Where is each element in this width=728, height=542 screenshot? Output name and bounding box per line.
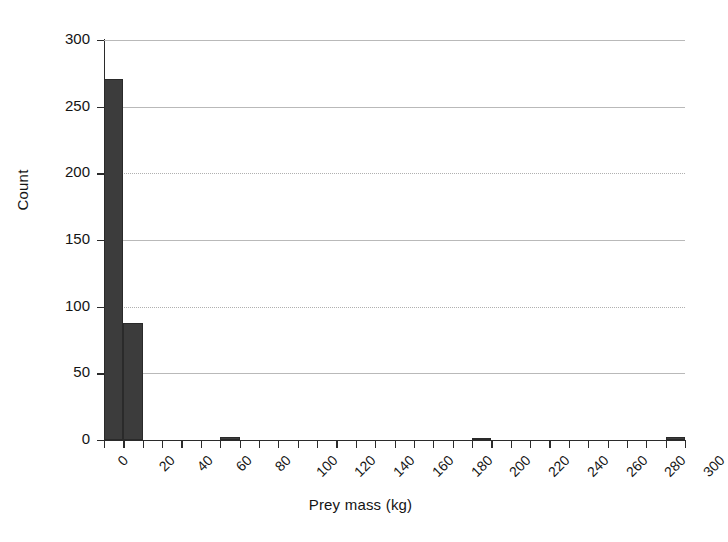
x-axis-tick [220,441,221,448]
y-axis-tick [97,307,104,308]
x-axis-tick [491,441,492,448]
histogram-bar [123,323,142,440]
x-axis-tick [646,441,647,448]
histogram-bar [472,438,491,441]
y-axis-tick [97,440,104,441]
x-axis-tick [104,441,105,448]
y-axis-tick-label: 300 [30,30,90,47]
x-axis-tick-label: 280 [661,452,689,480]
bar-series [104,40,685,440]
histogram-bar [666,437,685,440]
x-axis-tick [278,441,279,448]
x-axis-tick [162,441,163,448]
x-axis-tick [259,441,260,448]
y-axis-tick [97,40,104,41]
x-axis-tick [588,441,589,448]
x-axis-tick [453,441,454,448]
y-axis-tick-labels: 050100150200250300 [28,0,90,542]
y-axis-tick [97,240,104,241]
x-axis-tick-label: 60 [233,452,255,474]
x-axis-tick [608,441,609,448]
x-axis-tick [685,441,686,448]
x-axis-tick-label: 120 [351,452,379,480]
x-axis-tick [375,441,376,448]
x-axis-tick [201,441,202,448]
x-axis-tick [569,441,570,448]
x-axis-tick [240,441,241,448]
y-axis-tick-label: 150 [30,230,90,247]
x-axis-tick [549,441,550,448]
x-axis-tick-label: 100 [312,452,340,480]
y-axis-tick-label: 200 [30,163,90,180]
x-axis-tick [433,441,434,448]
x-axis-tick [123,441,124,448]
x-axis-tick [666,441,667,448]
x-axis-tick-label: 160 [429,452,457,480]
x-axis-tick-label: 300 [700,452,728,480]
y-axis-tick-label: 100 [30,297,90,314]
x-axis-tick [298,441,299,448]
x-axis-tick-label: 220 [545,452,573,480]
x-axis-tick [530,441,531,448]
y-axis-tick-label: 250 [30,97,90,114]
histogram-bar [220,437,239,440]
x-axis-tick-label: 180 [467,452,495,480]
x-axis-tick-label: 140 [390,452,418,480]
x-axis-tick [395,441,396,448]
x-axis-tick [627,441,628,448]
x-axis-tick-label: 260 [622,452,650,480]
histogram-bar [104,79,123,440]
x-axis-tick [181,441,182,448]
x-axis-tick [143,441,144,448]
x-axis-tick-label: 80 [271,452,293,474]
x-axis-tick [414,441,415,448]
x-axis-tick-label: 200 [506,452,534,480]
y-axis-tick-label: 50 [30,363,90,380]
x-axis-tick [472,441,473,448]
x-axis-tick [336,441,337,448]
x-axis-tick-label: 240 [584,452,612,480]
x-axis-tick [511,441,512,448]
x-axis-tick-label: 20 [155,452,177,474]
x-axis-tick [356,441,357,448]
y-axis-tick [97,107,104,108]
y-axis-tick [97,373,104,374]
x-axis-title: Prey mass (kg) [0,496,721,513]
x-axis-tick [317,441,318,448]
x-axis-tick-label: 0 [114,452,131,469]
x-axis-tick-label: 40 [194,452,216,474]
y-axis-tick [97,173,104,174]
y-axis-tick-label: 0 [30,430,90,447]
